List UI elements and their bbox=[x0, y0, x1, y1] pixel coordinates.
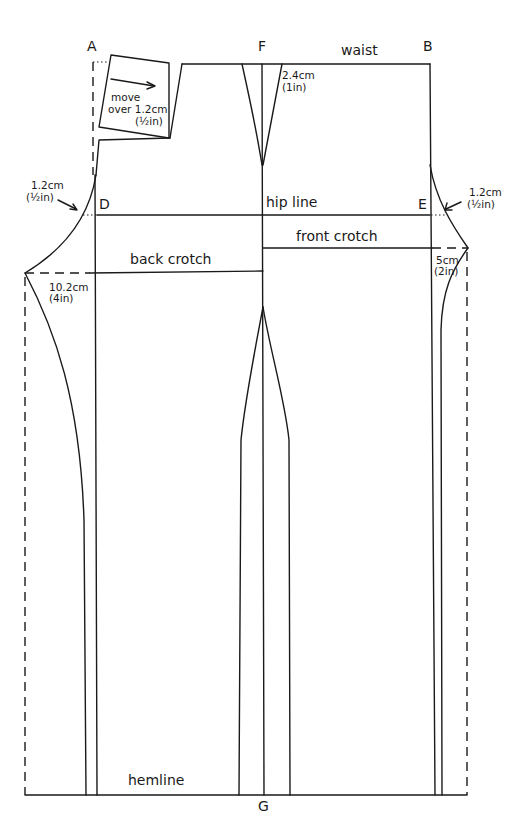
back-side-line bbox=[95, 175, 97, 795]
center-leg-curve-left bbox=[239, 307, 263, 795]
center-leg-curve-right bbox=[263, 307, 290, 795]
move-over-text-2: over 1.2cm bbox=[108, 103, 167, 115]
point-b-label: B bbox=[423, 38, 433, 54]
front-crotch-ext-text-2: (2in) bbox=[434, 265, 458, 277]
right-hip-text-2: (½in) bbox=[467, 198, 495, 210]
point-a-label: A bbox=[87, 38, 97, 54]
point-g-label: G bbox=[258, 798, 269, 814]
center-line-f-g bbox=[262, 64, 264, 795]
hemline-label: hemline bbox=[128, 772, 184, 788]
waist-step bbox=[170, 64, 182, 138]
front-hip-curve bbox=[430, 165, 468, 248]
move-over-text-3: (½in) bbox=[135, 115, 163, 127]
left-hip-text-2: (½in) bbox=[26, 191, 54, 203]
back-crotch-ext-text-2: (4in) bbox=[49, 292, 73, 304]
front-crotch-label: front crotch bbox=[296, 228, 378, 244]
back-crotch-line bbox=[90, 271, 263, 273]
point-d-label: D bbox=[99, 196, 110, 212]
back-leg-curve bbox=[25, 273, 86, 795]
front-crotch-curve bbox=[441, 248, 468, 795]
left-hip-text-1: 1.2cm bbox=[31, 179, 64, 191]
dart-text-2: (1in) bbox=[282, 81, 306, 93]
right-hip-text-1: 1.2cm bbox=[469, 186, 502, 198]
move-over-text-1: move bbox=[111, 91, 140, 103]
point-f-label: F bbox=[258, 38, 266, 54]
hip-line-label: hip line bbox=[266, 194, 317, 210]
side-line-right bbox=[430, 64, 435, 795]
dart-text-1: 2.4cm bbox=[282, 69, 315, 81]
dart-right-leg bbox=[263, 64, 282, 165]
back-waist-lowered bbox=[96, 138, 170, 175]
point-e-label: E bbox=[418, 196, 427, 212]
pattern-diagram: A B F D E G waist hip line back crotch f… bbox=[0, 0, 522, 835]
waist-label: waist bbox=[341, 42, 378, 58]
right-hip-arrow-line bbox=[446, 202, 461, 209]
back-crotch-label: back crotch bbox=[130, 251, 212, 267]
dart-left-leg bbox=[242, 64, 262, 165]
